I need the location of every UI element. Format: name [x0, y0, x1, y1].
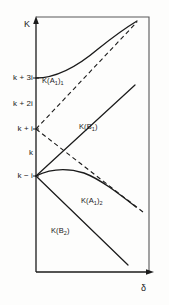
curve-label-K-B1-close: ): [95, 122, 98, 131]
y-tick-label-k: k: [0, 148, 33, 157]
curve-label-K-A1-2: K(A1)2: [81, 196, 103, 205]
curve-label-K-B2-base: K(B: [51, 226, 64, 235]
curve-label-K-A1-2-sub1: 1: [94, 200, 97, 206]
curve-label-K-B1-sub1: 1: [92, 126, 95, 132]
curve-label-K-B2-sub1: 2: [64, 230, 67, 236]
curve-K-B2: [36, 176, 128, 265]
y-axis-title: K: [24, 19, 30, 29]
curve-K-A1-1: [36, 21, 137, 78]
y-tick-label-k-plus-3i: k + 3i: [0, 73, 33, 82]
dispersion-diagram-figure: K δ k + 3i k + 2i k + i k k − i K(A1)1 K…: [0, 0, 169, 305]
x-axis-title: δ: [141, 283, 146, 293]
x-axis-arrowhead: [146, 269, 154, 275]
curve-label-K-B2-close: ): [67, 226, 70, 235]
curve-label-K-B1-base: K(B: [79, 122, 92, 131]
curve-label-K-A1-1: K(A1)1: [42, 76, 64, 85]
curve-label-K-A1-1-sub1: 1: [55, 80, 58, 86]
curve-label-K-A1-1-sub2: 1: [61, 80, 64, 86]
y-tick-label-k-minus-i: k − i: [0, 171, 33, 180]
curve-label-K-A1-2-base: K(A: [81, 196, 94, 205]
curve-label-K-B2: K(B2): [51, 226, 70, 235]
y-tick-label-k-plus-2i: k + 2i: [0, 99, 33, 108]
curve-label-K-A1-2-sub2: 2: [100, 200, 103, 206]
curve-label-K-A1-1-base: K(A: [42, 76, 55, 85]
y-tick-label-k-plus-i: k + i: [0, 124, 33, 133]
curve-label-K-B1: K(B1): [79, 122, 98, 131]
